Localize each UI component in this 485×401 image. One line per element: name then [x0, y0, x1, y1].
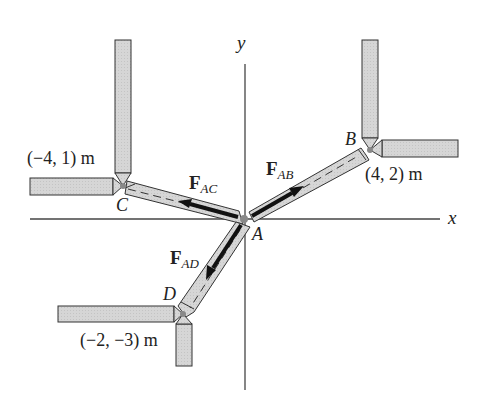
point-a-label: A — [251, 224, 264, 244]
force-diagram: y x A B C D (4, 2) m (−4, 1) m (−2, −3) … — [0, 0, 485, 401]
member-ac — [125, 181, 243, 224]
support-c-vertical-bar — [115, 40, 131, 173]
force-ac-label: FAC — [189, 172, 218, 196]
pin-a — [240, 215, 248, 223]
point-d-coords: (−2, −3) m — [80, 330, 158, 351]
support-d-vertical-bar — [176, 324, 192, 366]
support-b-vertical-bar — [362, 40, 378, 138]
pin-b — [367, 147, 373, 153]
support-d-horizontal-bar — [58, 306, 174, 322]
point-d-label: D — [162, 284, 176, 304]
pin-d — [180, 311, 186, 317]
point-b-label: B — [345, 129, 356, 149]
force-ad-label: FAD — [170, 247, 200, 271]
y-axis-label: y — [235, 32, 246, 53]
support-c-horizontal-bar — [30, 178, 113, 195]
point-c-coords: (−4, 1) m — [27, 148, 95, 169]
force-ab-label: FAB — [266, 158, 294, 182]
pin-c — [120, 183, 126, 189]
x-axis-label: x — [447, 207, 457, 228]
support-c — [30, 40, 131, 195]
point-c-label: C — [116, 195, 129, 215]
point-b-coords: (4, 2) m — [365, 164, 423, 185]
support-b — [362, 40, 458, 157]
support-b-horizontal-bar — [382, 140, 458, 157]
